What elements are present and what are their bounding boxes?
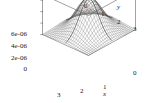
z-tick-label-3: 6e-06 <box>1 31 27 38</box>
z-tick-label-1: 2e-06 <box>1 55 27 62</box>
y-tick-label-3: 3 <box>133 26 137 33</box>
surface-plot-figure: 6e-06 4e-06 2e-06 0 0 1 2 3 y 3 2 1 0 x <box>0 0 150 103</box>
y-tick-label-2: 2 <box>117 19 121 26</box>
x-axis-label: x <box>103 91 106 98</box>
x-tick-label-2: 2 <box>80 88 84 95</box>
y-tick-label-0: 0 <box>84 3 88 10</box>
y-tick-label-1: 1 <box>101 11 105 18</box>
y-axis-label: y <box>117 4 120 11</box>
x-tick-label-0: 0 <box>133 70 137 77</box>
z-tick-label-0: 0 <box>1 66 27 73</box>
surface-mesh <box>43 0 136 55</box>
surface-plot-canvas <box>0 0 150 103</box>
z-tick-label-2: 4e-06 <box>1 43 27 50</box>
x-tick-label-3: 3 <box>57 92 61 99</box>
